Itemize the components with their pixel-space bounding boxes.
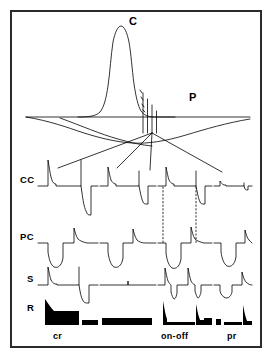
label-periphery-curve: P	[189, 92, 196, 103]
trace-pc-c2	[100, 229, 156, 267]
trace-pc-c3	[158, 227, 212, 268]
column-label-on-off: on-off	[161, 332, 188, 341]
trace-cc-c4-off	[244, 186, 252, 190]
trace-cc-c2-off	[139, 186, 156, 204]
trace-cc-c3-off	[196, 186, 212, 204]
trace-cc-cr	[38, 160, 81, 186]
trace-s-cr	[38, 267, 79, 285]
fan-line-col2	[117, 133, 152, 168]
curve-p	[26, 117, 250, 143]
row-label-pc: PC	[20, 232, 34, 242]
fan-line-col1	[58, 133, 152, 168]
hist-r-cr-decay	[45, 299, 54, 325]
trace-s-cr-off	[79, 285, 98, 303]
trace-pc-cr	[38, 228, 98, 267]
c-serration	[140, 90, 145, 112]
trace-pc-c4	[214, 230, 252, 266]
row-label-cc: CC	[20, 175, 34, 185]
hist-r-c4-mid	[224, 322, 242, 325]
trace-s-c3	[158, 268, 212, 299]
hist-r-c3-mid	[167, 322, 195, 325]
trace-cc-c2	[100, 167, 139, 186]
label-center-curve: C	[129, 16, 137, 27]
curve-p-left-arm	[60, 118, 152, 146]
column-label-cr: cr	[53, 332, 62, 341]
fan-line-col3	[150, 133, 152, 170]
hist-r-c2	[102, 318, 152, 325]
column-label-pr: pr	[227, 332, 237, 341]
hist-r-cr-off	[82, 320, 98, 325]
hist-r-c4-on	[216, 319, 221, 325]
trace-cc-c4	[214, 181, 244, 186]
curve-c	[78, 26, 175, 117]
figure-canvas	[0, 0, 275, 362]
row-label-r: R	[27, 303, 34, 313]
fan-line-col4	[152, 133, 222, 172]
trace-cc-cr-off	[81, 186, 98, 215]
trace-s-c2	[100, 281, 156, 285]
row-label-s: S	[27, 274, 34, 284]
hist-r-c3-on	[163, 301, 167, 325]
trace-cc-c3	[158, 167, 196, 186]
figure-root: C P CC PC S R cr on-off pr	[0, 0, 275, 362]
trace-s-c4	[214, 272, 252, 298]
hist-r-c3-off	[196, 304, 212, 325]
hist-r-c4-off	[243, 305, 252, 325]
